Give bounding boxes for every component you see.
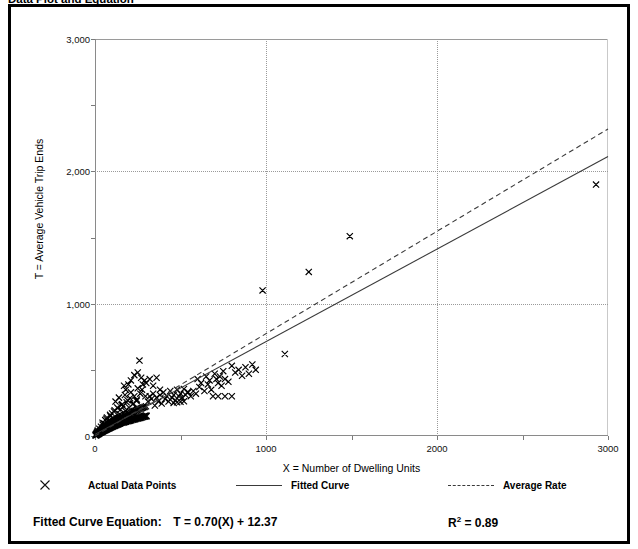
x-axis-tick	[181, 436, 182, 440]
y-axis-tick-label: 2,000	[66, 166, 90, 177]
r-squared-symbol: R	[448, 516, 457, 530]
legend-item-average-rate: Average Rate	[448, 479, 567, 491]
x-axis-tick-label: 2000	[426, 443, 447, 454]
solid-line-icon	[236, 479, 282, 491]
legend-label-actual-data-points: Actual Data Points	[88, 480, 176, 491]
y-axis-tick-label: 0	[85, 431, 90, 442]
legend-label-fitted-curve: Fitted Curve	[291, 480, 349, 491]
scatter-series-actual-data-points	[92, 181, 599, 438]
r-squared-exponent: 2	[457, 515, 461, 524]
legend-item-fitted-curve: Fitted Curve	[236, 479, 349, 491]
x-axis-tick-label: 3000	[597, 443, 618, 454]
x-axis-tick	[437, 436, 438, 440]
fitted-curve-line	[95, 156, 608, 434]
x-axis-tick	[352, 436, 353, 440]
legend-label-average-rate: Average Rate	[503, 480, 567, 491]
data-series-layer	[95, 39, 608, 436]
r-squared-value: R2 = 0.89	[448, 515, 498, 530]
legend-item-actual-data-points: Actual Data Points	[33, 479, 176, 491]
r-squared-number: = 0.89	[464, 516, 498, 530]
x-marker-icon	[33, 479, 79, 491]
equation-row: Fitted Curve Equation: T = 0.70(X) + 12.…	[11, 515, 627, 539]
chart-area: T = Average Vehicle Trip Ends X = Number…	[11, 7, 627, 467]
x-axis-tick	[608, 436, 609, 440]
x-axis-tick	[266, 436, 267, 440]
average-rate-line	[95, 129, 608, 436]
x-axis-tick-label: 1000	[255, 443, 276, 454]
fitted-curve-equation: Fitted Curve Equation: T = 0.70(X) + 12.…	[33, 515, 277, 529]
plot-area: 010002000300001,0002,0003,000	[95, 39, 608, 436]
y-axis-tick-label: 1,000	[66, 298, 90, 309]
y-axis-title: T = Average Vehicle Trip Ends	[33, 59, 45, 359]
x-axis-tick-label: 0	[92, 443, 97, 454]
y-axis-tick-label: 3,000	[66, 34, 90, 45]
figure-frame: T = Average Vehicle Trip Ends X = Number…	[8, 4, 630, 544]
equation-label: Fitted Curve Equation:	[33, 515, 162, 529]
x-axis-title: X = Number of Dwelling Units	[95, 462, 608, 474]
equation-formula: T = 0.70(X) + 12.37	[173, 515, 277, 529]
figure-root: Data Plot and Equation T = Average Vehic…	[0, 0, 638, 549]
chart-legend: Actual Data Points Fitted Curve Average …	[11, 479, 627, 505]
dashed-line-icon	[448, 479, 494, 491]
x-axis-tick	[523, 436, 524, 440]
